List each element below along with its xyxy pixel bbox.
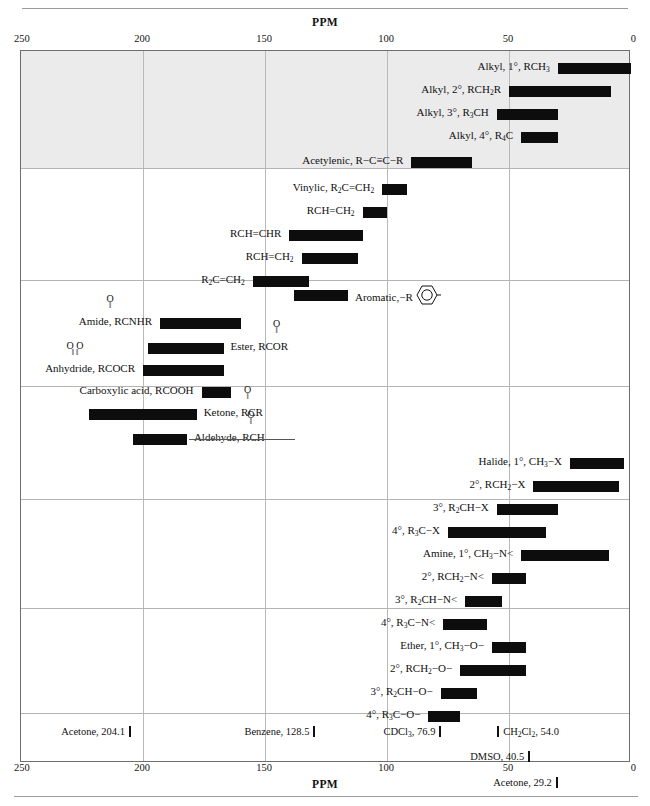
row-label-amine3: 3°, R2CH−N<	[395, 592, 457, 610]
range-bar-vinylic2	[363, 207, 387, 218]
chart-row-ketone: Ketone, RCR	[21, 403, 629, 426]
range-bar-ester	[148, 343, 224, 354]
range-bar-amine1	[521, 550, 609, 561]
solvent-marker-acetone_204: Acetone, 204.1	[61, 726, 135, 737]
row-label-amine2: 2°, RCH2−N<	[422, 569, 484, 587]
range-bar-amide	[160, 318, 241, 329]
chart-row-halide3: 3°, R2CH−X	[21, 498, 629, 521]
row-label-halide4: 4°, R3C−X	[392, 523, 440, 541]
range-bar-ether4	[428, 711, 460, 722]
chart-row-anhydride: Anhydride, RCOCR	[21, 359, 629, 382]
row-label-vinylic2: RCH=CH2	[307, 203, 355, 221]
solvent-tick-acetone_29	[556, 777, 558, 788]
axis-tick-100: 100	[378, 33, 394, 44]
chart-row-vinylic3: RCH=CHR	[21, 224, 629, 247]
range-bar-amine3	[465, 596, 502, 607]
solvent-label-dmso_40: DMSO, 40.5	[470, 751, 524, 762]
row-label-alkyl2_a: Alkyl, 2°, RCH2R	[421, 82, 501, 100]
range-bar-vinylic1	[382, 184, 406, 195]
range-bar-halide4	[448, 527, 546, 538]
range-bar-amine2	[492, 573, 526, 584]
chart-row-alkyl2_a: Alkyl, 2°, RCH2R	[21, 80, 629, 103]
range-bar-alkyl3	[497, 109, 558, 120]
row-label-amide: Amide, RCNHR	[79, 314, 152, 329]
chart-row-ether3: 3°, R2CH−O−	[21, 682, 629, 705]
row-label-halide1: Halide, 1°, CH3−X	[479, 454, 562, 472]
chart-row-halide2: 2°, RCH2−X	[21, 475, 629, 498]
solvent-marker-acetone_29: Acetone, 29.2	[493, 777, 562, 788]
range-bar-halide3	[497, 504, 558, 515]
row-label-alkyl1: Alkyl, 1°, RCH3	[477, 59, 549, 77]
axis-tick-100: 100	[378, 762, 394, 773]
axis-tick-150: 150	[256, 762, 272, 773]
nmr-chart-page: PPM PPM 250200150100500 250200150100500 …	[0, 0, 650, 806]
row-label-halide2: 2°, RCH2−X	[469, 477, 525, 495]
row-label-alkyl3: Alkyl, 3°, R3CH	[416, 105, 488, 123]
chart-row-ether1: Ether, 1°, CH3−O−	[21, 636, 629, 659]
range-bar-alkyl4	[521, 132, 558, 143]
chart-row-vinylic2: RCH=CH2	[21, 201, 629, 224]
chart-row-vinylic1: Vinylic, R2C=CH2	[21, 178, 629, 201]
row-label-vinylic4: RCH=CH2	[246, 249, 294, 267]
row-label-aromatic: Aromatic,−R	[355, 284, 441, 310]
chart-row-amine2: 2°, RCH2−N<	[21, 567, 629, 590]
range-bar-amine4	[443, 619, 487, 630]
chart-row-carboxylic: Carboxylic acid, RCOOH	[21, 381, 629, 404]
solvent-marker-benzene_128: Benzene, 128.5	[244, 726, 319, 737]
axis-bottom: 250200150100500	[0, 762, 650, 776]
plot-area: Alkyl, 1°, RCH3Alkyl, 2°, RCH2RAlkyl, 3°…	[20, 50, 630, 762]
benzene-ring-icon	[415, 284, 441, 310]
row-label-anhydride: Anhydride, RCOCR	[45, 361, 135, 376]
range-bar-ether1	[492, 642, 526, 653]
range-bar-ketone	[89, 409, 196, 420]
chart-row-amine4: 4°, R3C−N<	[21, 613, 629, 636]
axis-tick-250: 250	[14, 33, 30, 44]
axis-tick-0: 0	[631, 33, 636, 44]
carbonyl-group-ketone: O‖	[243, 385, 253, 401]
solvent-tick-cdcl3_76	[439, 726, 441, 737]
leader-line-aldehyde	[189, 439, 295, 440]
row-label-vinylic3: RCH=CHR	[230, 226, 281, 241]
solvent-tick-acetone_204	[129, 726, 131, 737]
top-rule	[22, 8, 628, 9]
range-bar-carboxylic	[202, 387, 231, 398]
range-bar-halide1	[570, 458, 624, 469]
ppm-title-top: PPM	[0, 16, 650, 28]
chart-row-acetylenic: Acetylenic, R−C≡C−R	[21, 151, 629, 174]
bottom-rule	[14, 796, 638, 797]
solvent-tick-dmso_40	[528, 751, 530, 762]
solvent-label-cdcl3_76: CDCl3, 76.9	[383, 726, 435, 737]
range-bar-acetylenic	[411, 157, 472, 168]
solvent-marker-cdcl3_76: CDCl3, 76.9	[383, 726, 445, 739]
range-bar-vinylic3	[289, 230, 362, 241]
chart-row-alkyl4: Alkyl, 4°, R4C	[21, 126, 629, 149]
row-label-aldehyde: Aldehyde, RCH	[194, 430, 265, 445]
range-bar-aromatic	[294, 290, 348, 301]
chart-row-amine3: 3°, R2CH−N<	[21, 590, 629, 613]
chart-row-halide4: 4°, R3C−X	[21, 521, 629, 544]
chart-row-ether2: 2°, RCH2−O−	[21, 659, 629, 682]
solvent-tick-ch2cl2_54	[497, 726, 499, 737]
axis-tick-50: 50	[503, 33, 514, 44]
chart-row-alkyl3: Alkyl, 3°, R3CH	[21, 103, 629, 126]
range-bar-aldehyde	[133, 434, 187, 445]
chart-row-amine1: Amine, 1°, CH3−N<	[21, 544, 629, 567]
solvent-label-benzene_128: Benzene, 128.5	[244, 726, 309, 737]
solvent-label-acetone_29: Acetone, 29.2	[493, 777, 552, 788]
axis-tick-200: 200	[134, 33, 150, 44]
chart-row-alkyl1: Alkyl, 1°, RCH3	[21, 57, 629, 80]
axis-top: 250200150100500	[0, 33, 650, 47]
row-label-halide3: 3°, R2CH−X	[433, 500, 489, 518]
solvent-tick-benzene_128	[313, 726, 315, 737]
range-bar-alkyl1	[558, 63, 631, 74]
range-bar-ether2	[460, 665, 526, 676]
row-label-ester: Ester, RCOR	[231, 339, 289, 354]
carbonyl-group-aldehyde: O‖	[246, 410, 256, 426]
carbonyl-group-anhydride: O O‖ ‖	[62, 341, 88, 357]
solvent-marker-dmso_40: DMSO, 40.5	[470, 751, 534, 762]
chart-row-aldehyde: Aldehyde, RCH	[21, 428, 629, 451]
row-label-ether4: 4°, R3C−O−	[366, 707, 420, 725]
solvent-label-acetone_204: Acetone, 204.1	[61, 726, 125, 737]
chart-row-ether4: 4°, R3C−O−	[21, 705, 629, 728]
range-bar-alkyl2_a	[509, 86, 611, 97]
